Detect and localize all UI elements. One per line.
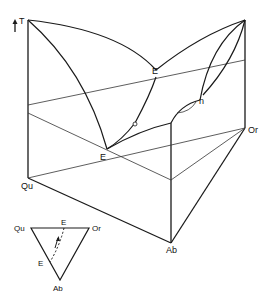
isotherm-front-left: [28, 113, 171, 180]
base-edge-qu-or: [28, 128, 245, 178]
label-eutectic-bottom: E: [100, 152, 106, 162]
inset-label-qu: Qu: [14, 224, 25, 233]
cotectic-lower: [107, 123, 135, 149]
inset-label-ab: Ab: [53, 284, 63, 293]
label-vertex-ab: Ab: [166, 245, 177, 255]
isotherm-front-right: [171, 128, 245, 180]
inset-triangle: [31, 228, 89, 280]
curve-e-ab: [107, 123, 171, 149]
base-edge-ab-or: [171, 128, 245, 243]
liquidus-qu-e: [28, 20, 107, 149]
label-eutectic-top: E: [152, 66, 158, 76]
inset-label-or: Or: [92, 224, 101, 233]
temperature-axis-label: T: [19, 16, 25, 26]
liquidus-qu-or-top: [28, 20, 156, 70]
base-edge-qu-ab: [28, 178, 171, 243]
inset-cotectic-path: [50, 228, 64, 262]
phase-diagram: T E E n Qu Or Ab Qu Or Ab E E: [0, 0, 269, 303]
label-vertex-qu: Qu: [21, 181, 33, 191]
label-vertex-or: Or: [248, 125, 258, 135]
inset-label-e-top: E: [61, 218, 66, 227]
cotectic-upper: [135, 77, 156, 123]
loop-or-n-inner: [203, 20, 245, 95]
inset-label-e-left: E: [38, 259, 43, 268]
isotherm-back: [28, 60, 245, 105]
cotectic-point-marker: [133, 122, 137, 126]
loop-or-n-outer: [200, 20, 245, 100]
label-point-n: n: [199, 96, 204, 106]
inset-arrow-icon: [56, 236, 60, 241]
temperature-axis-arrow: [13, 19, 18, 32]
inset-ternary: Qu Or Ab E E: [14, 218, 101, 293]
